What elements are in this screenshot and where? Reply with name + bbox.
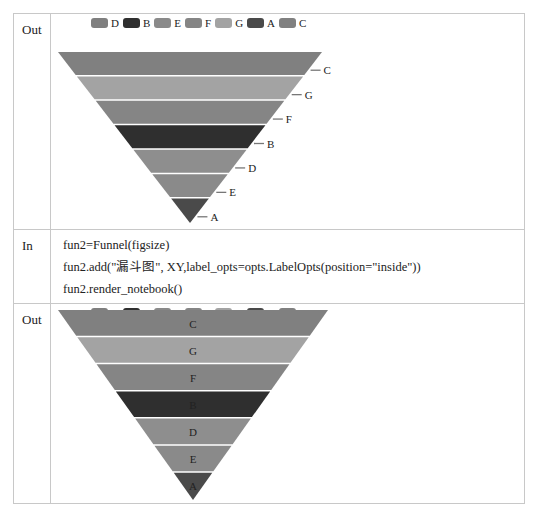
- segment-label: D: [189, 426, 197, 438]
- segment-label: F: [286, 113, 292, 125]
- segment-label: G: [189, 345, 197, 357]
- row-label: Out: [14, 14, 51, 229]
- segment-label: C: [324, 64, 331, 76]
- segment-label: C: [189, 318, 196, 330]
- funnel-chart-inside: DBEFGAC CGFBDEA: [51, 304, 524, 504]
- funnel-segment-C[interactable]: [58, 52, 322, 75]
- segment-label: B: [267, 138, 274, 150]
- row-label: Out: [14, 304, 51, 504]
- code-line: fun2.render_notebook(): [63, 278, 524, 300]
- input-row: In fun2=Funnel(figsize) fun2.add("漏斗图", …: [14, 230, 524, 304]
- code-line: fun2.add("漏斗图", XY,label_opts=opts.Label…: [63, 256, 524, 278]
- segment-label: F: [190, 372, 196, 384]
- funnel-segment-F[interactable]: [96, 101, 285, 124]
- code-line: fun2=Funnel(figsize): [63, 234, 524, 256]
- funnel-svg: CGFBDEA: [51, 304, 526, 504]
- segment-label: A: [210, 211, 218, 223]
- segment-label: G: [305, 89, 313, 101]
- notebook-table: Out DBEFGAC CGFBDEA In fun2=Funnel(figsi…: [13, 13, 525, 504]
- segment-label: E: [229, 186, 236, 198]
- segment-label: A: [189, 480, 197, 492]
- funnel-segment-E[interactable]: [152, 174, 227, 197]
- segment-label: E: [190, 453, 197, 465]
- funnel-chart-outside: DBEFGAC CGFBDEA: [51, 14, 524, 229]
- funnel-svg: CGFBDEA: [51, 14, 526, 229]
- output-row-1: Out DBEFGAC CGFBDEA: [14, 14, 524, 230]
- funnel-segment-D[interactable]: [133, 150, 246, 173]
- funnel-segment-G[interactable]: [77, 76, 303, 99]
- row-label: In: [14, 230, 51, 303]
- segment-label: B: [189, 399, 196, 411]
- funnel-segment-B[interactable]: [115, 125, 266, 148]
- code-cell[interactable]: fun2=Funnel(figsize) fun2.add("漏斗图", XY,…: [51, 230, 524, 303]
- segment-label: D: [248, 162, 256, 174]
- output-row-2: Out DBEFGAC CGFBDEA: [14, 304, 524, 504]
- funnel-segment-A[interactable]: [171, 199, 209, 223]
